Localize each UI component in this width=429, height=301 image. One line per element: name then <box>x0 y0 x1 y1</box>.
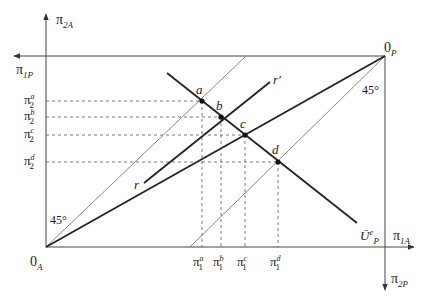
point-a <box>199 98 204 103</box>
origin-P-label: 0P <box>384 40 397 58</box>
origin-A-label: 0A <box>30 254 43 272</box>
point-d <box>275 159 280 164</box>
pi2A-label: π2A <box>56 12 74 30</box>
pi2P-label: π2P <box>391 271 409 289</box>
utility-label: ŪeP <box>360 227 379 246</box>
point-c <box>242 132 247 137</box>
x-tick-c: πc1 <box>237 254 248 272</box>
edgeworth-box-diagram: a b c d r r' ŪeP π2A π1P π1A π2P 0A 0P 4… <box>0 0 429 301</box>
y-tick-b: πb2 <box>24 108 35 126</box>
x-tick-a: πa1 <box>193 254 204 272</box>
angle-45-upper: 45° <box>362 83 379 97</box>
x-tick-d: πd1 <box>270 254 282 272</box>
point-c-label: c <box>240 116 246 131</box>
r-label: r <box>134 177 140 192</box>
forty-five-line-P <box>190 56 385 247</box>
point-b-label: b <box>216 98 223 113</box>
pi1P-label: π1P <box>16 62 34 80</box>
r-prime-label: r' <box>273 72 281 87</box>
y-tick-d: πd2 <box>24 153 36 171</box>
r-line <box>144 82 270 183</box>
point-d-label: d <box>272 142 279 157</box>
x-tick-b: πb1 <box>213 254 224 272</box>
point-b <box>218 114 223 119</box>
pi1A-label: π1A <box>393 228 411 246</box>
y-tick-c: πc2 <box>24 126 35 144</box>
point-a-label: a <box>196 82 203 97</box>
angle-45-lower: 45° <box>50 213 67 227</box>
